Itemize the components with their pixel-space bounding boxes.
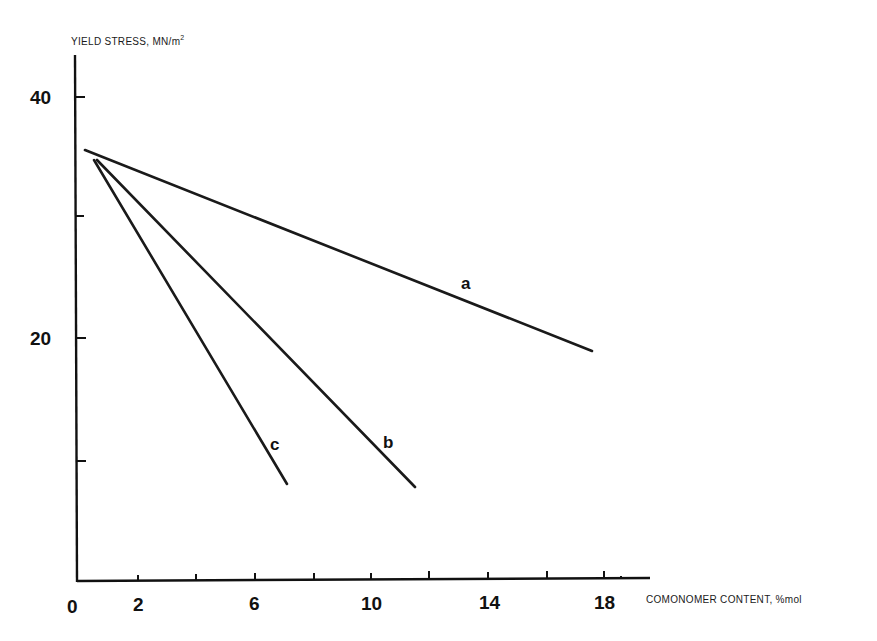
x-tick-label-0: 0: [67, 596, 78, 617]
series-label-a: a: [461, 274, 471, 293]
x-tick-label-6: 6: [249, 593, 260, 614]
y-tick-label-20: 20: [30, 328, 51, 349]
line-chart: 40 20 0 2 6 10 14 18 YIELD STRESS, MN/m2…: [0, 0, 877, 641]
axes: [75, 55, 650, 582]
y-axis-title-superscript: 2: [180, 34, 184, 41]
series-labels: a b c: [270, 274, 471, 454]
x-tick-label-18: 18: [594, 592, 615, 613]
y-axis-title-text: YIELD STRESS, MN/m: [71, 36, 180, 47]
x-tick-label-2: 2: [133, 594, 144, 615]
x-tick-labels: 0 2 6 10 14 18: [67, 592, 615, 617]
y-axis-title: YIELD STRESS, MN/m2: [71, 34, 185, 47]
x-tick-label-14: 14: [479, 592, 501, 613]
series-label-b: b: [383, 433, 393, 452]
series-line-a: [85, 150, 592, 351]
y-tick-labels: 40 20: [30, 87, 51, 349]
y-axis: [75, 55, 77, 582]
series: [85, 150, 592, 487]
series-line-b: [97, 160, 415, 487]
series-label-c: c: [270, 435, 279, 454]
x-axis-title: COMONOMER CONTENT, %mol: [646, 594, 802, 605]
series-line-c: [94, 160, 287, 484]
x-tick-label-10: 10: [361, 593, 382, 614]
y-tick-label-40: 40: [30, 87, 51, 108]
x-axis: [77, 578, 650, 581]
